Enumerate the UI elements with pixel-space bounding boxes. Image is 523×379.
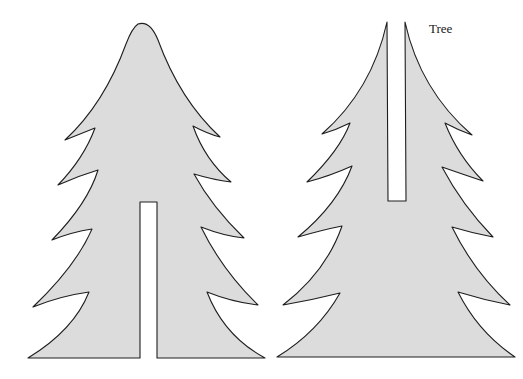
tree-piece-slot-from-top [277, 22, 515, 357]
tree-shapes [0, 0, 523, 379]
tree-piece-slot-from-bottom [28, 23, 265, 358]
figure-label: Tree [429, 22, 452, 35]
tree-template-figure: Tree [0, 0, 523, 379]
